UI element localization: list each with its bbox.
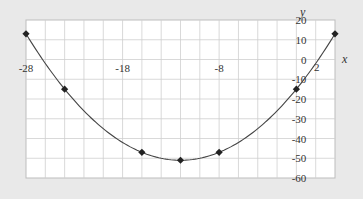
x-axis-label: x xyxy=(341,52,348,66)
x-tick-label: -18 xyxy=(115,62,130,74)
x-tick-label: -28 xyxy=(19,62,34,74)
y-tick-label: -20 xyxy=(292,93,307,105)
parabola-chart: -28-18-8220100-10-20-30-40-50-60 x y xyxy=(0,0,363,199)
y-tick-label: -30 xyxy=(292,113,307,125)
y-axis-label: y xyxy=(299,5,306,19)
y-tick-label: 10 xyxy=(295,34,307,46)
x-tick-label: -8 xyxy=(215,62,225,74)
y-tick-label: -40 xyxy=(292,133,307,145)
y-tick-label: -60 xyxy=(292,172,307,184)
y-tick-label: 0 xyxy=(301,54,307,66)
y-tick-label: -50 xyxy=(292,152,307,164)
